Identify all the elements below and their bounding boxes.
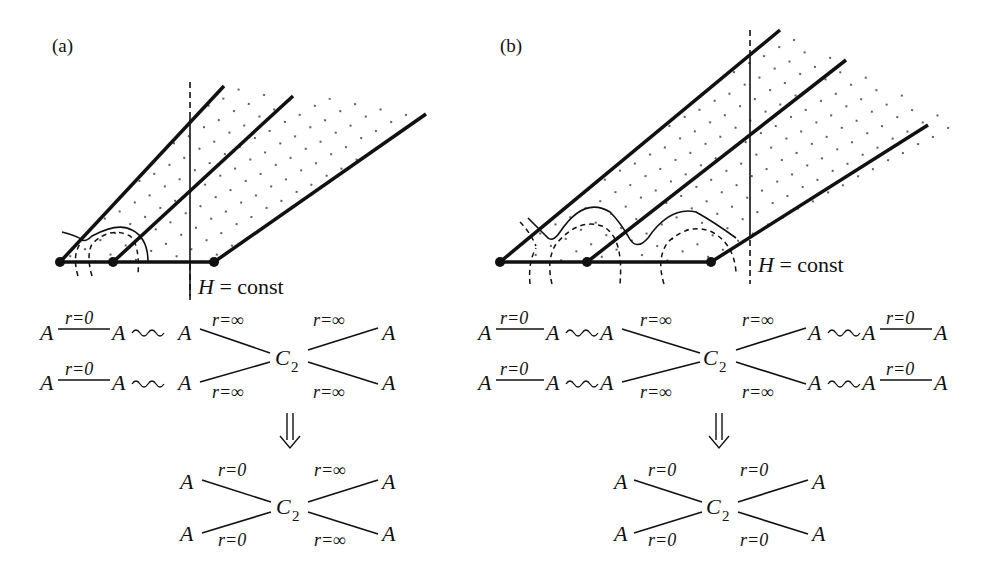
b-res-center-sub: 2 (722, 508, 730, 524)
b-res-bottom-right-label: r=0 (740, 530, 768, 550)
b-row2-right-mid-A: A (860, 370, 876, 395)
panel-a-vertex-1 (55, 257, 65, 267)
panel-a: (a) H = const (52, 35, 426, 300)
b-row2-spoke-right (736, 362, 806, 384)
a-row1-left-A: A (38, 320, 54, 345)
b-row1-wavy-right (828, 330, 860, 336)
b-row1-right-label: r=∞ (742, 310, 774, 330)
a-row2-center-label: r=∞ (212, 382, 244, 402)
b-res-spoke-tl (634, 480, 702, 502)
a-row1-right-label: r=∞ (313, 310, 345, 330)
a-top-center-C: C (275, 345, 290, 370)
panel-b-hconst-label: H = const (757, 252, 844, 277)
b-res-bottom-left-label: r=0 (648, 530, 676, 550)
b-row2-edge-label-right: r=0 (886, 359, 914, 379)
a-res-top-left-A: A (178, 469, 194, 494)
b-res-top-left-A: A (612, 469, 628, 494)
a-row1-spoke-left (200, 329, 270, 353)
b-row1-wavy-left (566, 330, 598, 336)
b-row1-left-A: A (476, 320, 492, 345)
panel-b-label: (b) (500, 35, 522, 57)
panel-a-hconst-label: H = const (197, 274, 284, 299)
a-row2-right-label: r=∞ (313, 382, 345, 402)
a-row1-mid-A: A (110, 320, 126, 345)
b-row2-inner-A: A (598, 370, 614, 395)
b-res-top-right-label: r=0 (740, 460, 768, 480)
a-res-top-left-label: r=0 (218, 460, 246, 480)
b-res-bottom-left-A: A (612, 521, 628, 546)
b-row2-right-inner-A: A (806, 370, 822, 395)
a-row2-mid-A: A (110, 370, 126, 395)
a-res-bottom-right-label: r=∞ (314, 530, 346, 550)
a-res-top-right-label: r=∞ (314, 460, 346, 480)
b-row1-inner-A: A (598, 320, 614, 345)
a-row2-left-A: A (38, 370, 54, 395)
b-row1-spoke-left (622, 329, 700, 353)
panel-b-dotted-region (500, 30, 960, 262)
panel-b-top-diagram: A r=0 A A r=∞ r=∞ A A r=0 A C 2 A r=0 A … (476, 308, 948, 402)
b-row2-right-A: A (932, 370, 948, 395)
b-row1-edge-label-left: r=0 (500, 308, 528, 328)
a-res-center-C: C (276, 494, 291, 519)
a-row1-edge-label: r=0 (65, 308, 93, 328)
b-row1-edge-label-right: r=0 (886, 308, 914, 328)
b-row1-right-inner-A: A (806, 320, 822, 345)
a-row2-inner-A: A (176, 370, 192, 395)
panel-b-result-diagram: A r=0 A r=0 C 2 r=0 A r=0 A (612, 460, 826, 550)
a-row2-spoke-right (308, 362, 378, 384)
panel-b: (b) H = const (495, 30, 960, 284)
a-res-bottom-left-A: A (178, 521, 194, 546)
panel-a-label: (a) (52, 35, 73, 57)
panel-b-vertex-1 (495, 257, 505, 267)
a-row2-edge-label: r=0 (65, 359, 93, 379)
b-res-top-left-label: r=0 (648, 460, 676, 480)
b-res-bottom-right-A: A (810, 521, 826, 546)
a-row2-right-A: A (380, 370, 396, 395)
b-row2-mid-A: A (544, 370, 560, 395)
panel-a-top-diagram: A r=0 A A r=∞ r=∞ A C 2 A r=0 A A r=∞ r=… (38, 308, 396, 402)
a-res-bottom-left-label: r=0 (218, 530, 246, 550)
b-row1-right-mid-A: A (860, 320, 876, 345)
b-top-center-C: C (703, 345, 718, 370)
panel-a-result-diagram: A r=0 A r=0 C 2 r=∞ A r=∞ A (178, 460, 396, 550)
b-row2-wavy-right (828, 381, 860, 387)
b-row2-left-A: A (476, 370, 492, 395)
panel-a-implies-arrow-icon (280, 413, 300, 448)
b-res-center-C: C (706, 494, 721, 519)
a-res-spoke-tl (202, 480, 271, 502)
b-row1-spoke-right (736, 328, 806, 350)
a-res-bottom-right-A: A (380, 521, 396, 546)
b-row2-spoke-left (622, 362, 700, 382)
figure-canvas: (a) H = const (b) (0, 0, 1004, 581)
a-row1-center-label: r=∞ (212, 310, 244, 330)
a-res-spoke-tr (308, 480, 378, 502)
panel-b-vertex-2 (582, 257, 592, 267)
panel-b-implies-arrow-icon (709, 413, 729, 448)
a-res-top-right-A: A (380, 469, 396, 494)
b-res-spoke-tr (738, 480, 808, 502)
panel-a-dotted-region (60, 86, 426, 262)
b-row2-center-label: r=∞ (640, 382, 672, 402)
a-row1-inner-A: A (176, 320, 192, 345)
b-row1-mid-A: A (544, 320, 560, 345)
b-row1-right-A: A (932, 320, 948, 345)
panel-a-vertex-3 (209, 257, 219, 267)
a-row1-wavy-link (132, 330, 164, 336)
b-res-top-right-A: A (810, 469, 826, 494)
a-row2-spoke-left (200, 362, 270, 382)
b-row2-wavy-left (566, 381, 598, 387)
b-row1-center-label: r=∞ (640, 310, 672, 330)
a-row2-wavy-link (132, 381, 164, 387)
b-row2-edge-label-left: r=0 (500, 359, 528, 379)
b-top-center-sub: 2 (719, 359, 727, 375)
panel-a-vertex-2 (108, 257, 118, 267)
a-res-center-sub: 2 (292, 508, 300, 524)
a-row1-right-A: A (380, 320, 396, 345)
b-row2-right-label: r=∞ (742, 382, 774, 402)
a-row1-spoke-right (308, 328, 378, 350)
a-top-center-sub: 2 (291, 359, 299, 375)
panel-b-vertex-3 (706, 257, 716, 267)
